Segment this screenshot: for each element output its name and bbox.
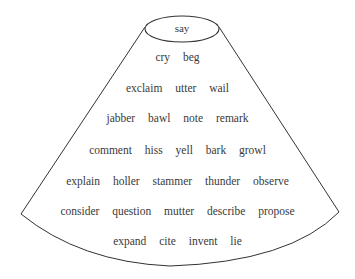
top-word-say: say (0, 21, 355, 35)
word: cry (155, 50, 170, 64)
word: yell (176, 143, 193, 157)
word: comment (89, 143, 132, 157)
word: note (183, 111, 203, 125)
word: remark (216, 111, 249, 125)
word: exclaim (126, 81, 162, 95)
word: expand (113, 234, 146, 248)
word-row-4: comment hiss yell bark growl (0, 143, 355, 157)
word: holler (113, 174, 140, 188)
word-row-2: exclaim utter wail (0, 81, 355, 95)
word: hiss (145, 143, 163, 157)
word: describe (207, 204, 245, 218)
word-row-7: expand cite invent lie (0, 234, 355, 248)
word: bawl (148, 111, 170, 125)
word: bark (206, 143, 226, 157)
word: lie (230, 234, 242, 248)
word: observe (253, 174, 289, 188)
word-row-6: consider question mutter describe propos… (0, 204, 355, 218)
word-row-3: jabber bawl note remark (0, 111, 355, 125)
word: question (112, 204, 151, 218)
word: beg (183, 50, 200, 64)
word: growl (239, 143, 266, 157)
word: jabber (106, 111, 135, 125)
word: wail (209, 81, 229, 95)
word: cite (159, 234, 176, 248)
word: propose (258, 204, 294, 218)
word-row-1: cry beg (0, 50, 355, 64)
word: stammer (153, 174, 193, 188)
word: consider (60, 204, 99, 218)
word: explain (66, 174, 100, 188)
word: utter (175, 81, 196, 95)
word: mutter (164, 204, 194, 218)
word: invent (189, 234, 218, 248)
word: thunder (205, 174, 240, 188)
word-row-5: explain holler stammer thunder observe (0, 174, 355, 188)
